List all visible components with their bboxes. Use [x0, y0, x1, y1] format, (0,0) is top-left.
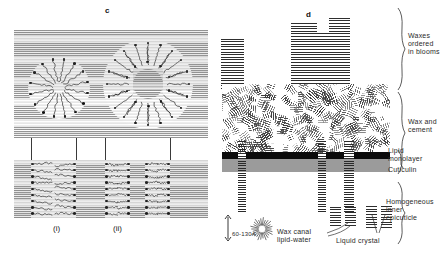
legend-bloom-glyph [345, 206, 356, 226]
polar-head-dot [134, 44, 137, 47]
polar-head-dot [145, 212, 148, 215]
polar-head-dot [105, 206, 108, 209]
panel-c: c [0, 0, 222, 259]
polar-head-dot [52, 58, 55, 61]
polar-head-dot [73, 175, 76, 178]
wax-matrix-lower [14, 160, 208, 218]
legend-liquid-crystal: Liquid crystal [336, 237, 380, 245]
polar-head-dot [74, 111, 77, 114]
polar-head-dot [105, 181, 108, 184]
sublabel-i: (i) [53, 224, 60, 233]
polar-head-dot [73, 188, 76, 191]
polar-head-dot [127, 212, 130, 215]
layer-label-cuticulin: Cuticulin [388, 166, 417, 174]
polar-head-dot [167, 206, 170, 209]
drop-line [31, 138, 32, 160]
polar-head-dot [31, 175, 34, 178]
polar-head-dot [167, 175, 170, 178]
polar-head-dot [145, 175, 148, 178]
polar-head-dot [127, 206, 130, 209]
polar-head-dot [53, 115, 56, 118]
polar-head-dot [31, 188, 34, 191]
sublabel-ii: (ii) [113, 224, 122, 233]
figure-root: c [0, 0, 446, 259]
drop-line [170, 138, 171, 160]
polar-head-dot [73, 62, 76, 65]
polar-head-dot [33, 71, 36, 74]
polar-head-dot [73, 212, 76, 215]
polar-head-dot [134, 101, 137, 104]
polar-head-dot [147, 105, 150, 108]
micelle-tails-svg [14, 30, 208, 138]
panel-d: d Waxes ordered in blooms Wax [222, 0, 446, 259]
polar-head-dot [134, 122, 137, 125]
polar-head-dot [145, 181, 148, 184]
polar-head-dot [105, 188, 108, 191]
polar-head-dot [127, 181, 130, 184]
legend-bloom-glyph [381, 206, 392, 228]
polar-head-dot [86, 81, 89, 84]
polar-head-dot [108, 70, 111, 73]
polar-head-dot [42, 111, 45, 114]
polar-head-dot [145, 188, 148, 191]
panel-c-letter: c [105, 6, 109, 15]
layer-label-waxes-ordered-in-blooms: Waxes ordered in blooms [408, 32, 440, 56]
polar-head-dot [105, 212, 108, 215]
polar-head-dot [186, 70, 189, 73]
polar-head-dot [82, 102, 85, 105]
polar-head-dot [31, 212, 34, 215]
polar-head-dot [145, 206, 148, 209]
layer-label-lipid-monolayer: Lipid monolayer [388, 147, 422, 163]
polar-head-dot [126, 76, 129, 79]
polar-head-dot [73, 206, 76, 209]
polar-head-dot [127, 188, 130, 191]
wax-matrix-upper [14, 30, 208, 138]
polar-head-dot [105, 175, 108, 178]
polar-head-dot [167, 188, 170, 191]
polar-head-dot [167, 181, 170, 184]
legend-bloom-glyph [366, 206, 377, 228]
legend-bloom-glyph [330, 206, 341, 226]
drop-line [76, 138, 77, 160]
polar-head-dot [134, 65, 137, 68]
drop-line [105, 138, 106, 160]
polar-head-dot [82, 70, 85, 73]
lamellar-tails-svg [14, 160, 208, 218]
polar-head-dot [167, 212, 170, 215]
polar-head-dot [73, 181, 76, 184]
polar-head-dot [29, 82, 32, 85]
layer-label-wax-and-cement: Wax and cement [408, 118, 437, 134]
polar-head-dot [31, 181, 34, 184]
scale-bar-label: 60-130A [232, 230, 256, 238]
polar-head-dot [127, 175, 130, 178]
legend-wax-canal-lipid-water: Wax canal lipid-water [277, 228, 311, 244]
polar-head-dot [31, 206, 34, 209]
